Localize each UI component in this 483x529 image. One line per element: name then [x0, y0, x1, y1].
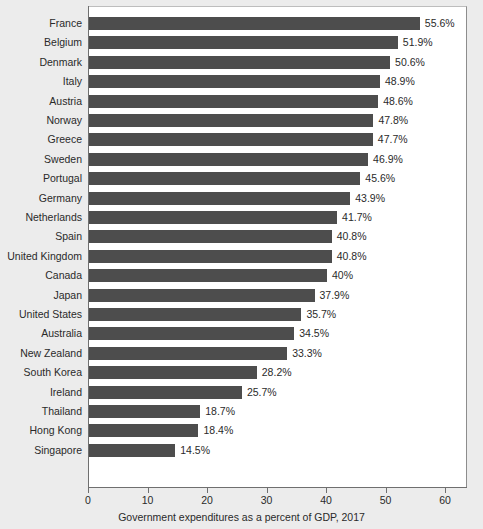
x-tick-label: 60	[430, 494, 460, 506]
bar-row: Belgium51.9%	[0, 33, 483, 52]
bar	[89, 250, 332, 263]
category-label: France	[0, 14, 82, 33]
x-tick-label: 10	[133, 494, 163, 506]
bar-row: Hong Kong18.4%	[0, 421, 483, 440]
category-label: Thailand	[0, 402, 82, 421]
x-tick	[148, 488, 149, 493]
x-axis-title: Government expenditures as a percent of …	[0, 511, 483, 523]
bar-value-label: 28.2%	[262, 363, 292, 382]
bar-row: Thailand18.7%	[0, 402, 483, 421]
bar-value-label: 47.7%	[378, 130, 408, 149]
bar-value-label: 40.8%	[337, 247, 367, 266]
bar-row: United Kingdom40.8%	[0, 247, 483, 266]
bar-value-label: 48.9%	[385, 72, 415, 91]
bar-value-label: 45.6%	[365, 169, 395, 188]
bar	[89, 347, 287, 360]
x-tick	[207, 488, 208, 493]
bar-row: Netherlands41.7%	[0, 208, 483, 227]
bar-row: Denmark50.6%	[0, 53, 483, 72]
x-tick	[445, 488, 446, 493]
bar-value-label: 41.7%	[342, 208, 372, 227]
category-label: Canada	[0, 266, 82, 285]
category-label: United States	[0, 305, 82, 324]
bar-value-label: 18.7%	[205, 402, 235, 421]
bar	[89, 172, 360, 185]
bar	[89, 133, 373, 146]
bar-row: Austria48.6%	[0, 92, 483, 111]
bar	[89, 444, 175, 457]
category-label: Spain	[0, 227, 82, 246]
bar-row: New Zealand33.3%	[0, 344, 483, 363]
bar-row: Australia34.5%	[0, 324, 483, 343]
bar-value-label: 40.8%	[337, 227, 367, 246]
bar-row: Italy48.9%	[0, 72, 483, 91]
category-label: Italy	[0, 72, 82, 91]
bar-row: Spain40.8%	[0, 227, 483, 246]
bar	[89, 386, 242, 399]
bar	[89, 230, 332, 243]
bar-row: Ireland25.7%	[0, 383, 483, 402]
bar-value-label: 50.6%	[395, 53, 425, 72]
bar	[89, 269, 327, 282]
bar	[89, 75, 380, 88]
bar-value-label: 37.9%	[320, 286, 350, 305]
category-label: Greece	[0, 130, 82, 149]
bar-row: Greece47.7%	[0, 130, 483, 149]
x-axis-line	[88, 487, 467, 488]
bar-value-label: 55.6%	[425, 14, 455, 33]
x-tick	[326, 488, 327, 493]
bar-value-label: 51.9%	[403, 33, 433, 52]
x-tick	[267, 488, 268, 493]
bar-value-label: 25.7%	[247, 383, 277, 402]
category-label: Austria	[0, 92, 82, 111]
bar	[89, 405, 200, 418]
x-tick-label: 0	[73, 494, 103, 506]
bar-value-label: 14.5%	[180, 441, 210, 460]
x-tick	[88, 488, 89, 493]
bar-value-label: 40%	[332, 266, 353, 285]
bar-row: France55.6%	[0, 14, 483, 33]
category-label: Sweden	[0, 150, 82, 169]
bar-value-label: 48.6%	[383, 92, 413, 111]
category-label: Norway	[0, 111, 82, 130]
bar-row: Singapore14.5%	[0, 441, 483, 460]
bar-value-label: 43.9%	[355, 189, 385, 208]
x-tick-label: 20	[192, 494, 222, 506]
bar	[89, 327, 294, 340]
x-tick-label: 50	[371, 494, 401, 506]
bar	[89, 114, 373, 127]
bar	[89, 211, 337, 224]
bar-row: Germany43.9%	[0, 189, 483, 208]
category-label: South Korea	[0, 363, 82, 382]
x-tick	[386, 488, 387, 493]
x-tick-label: 30	[252, 494, 282, 506]
bar	[89, 17, 420, 30]
category-label: United Kingdom	[0, 247, 82, 266]
bar-value-label: 46.9%	[373, 150, 403, 169]
bar	[89, 192, 350, 205]
bar-value-label: 33.3%	[292, 344, 322, 363]
bar-value-label: 34.5%	[299, 324, 329, 343]
bar	[89, 308, 301, 321]
bar-row: South Korea28.2%	[0, 363, 483, 382]
bar-row: Canada40%	[0, 266, 483, 285]
category-label: Portugal	[0, 169, 82, 188]
category-label: Hong Kong	[0, 421, 82, 440]
category-label: Belgium	[0, 33, 82, 52]
bar-value-label: 35.7%	[306, 305, 336, 324]
category-label: Japan	[0, 286, 82, 305]
bar-row: Japan37.9%	[0, 286, 483, 305]
bar	[89, 366, 257, 379]
bar	[89, 424, 198, 437]
bar-row: United States35.7%	[0, 305, 483, 324]
bar	[89, 289, 315, 302]
category-label: Denmark	[0, 53, 82, 72]
category-label: Germany	[0, 189, 82, 208]
x-tick-label: 40	[311, 494, 341, 506]
bar-row: Sweden46.9%	[0, 150, 483, 169]
bar	[89, 36, 398, 49]
bar	[89, 95, 378, 108]
category-label: Ireland	[0, 383, 82, 402]
bar	[89, 153, 368, 166]
bar-chart: France55.6%Belgium51.9%Denmark50.6%Italy…	[0, 0, 483, 529]
